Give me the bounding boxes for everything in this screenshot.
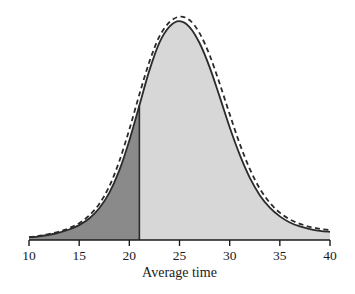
x-axis-tick-label: 10 — [22, 248, 36, 263]
x-axis-title: Average time — [142, 265, 217, 280]
x-axis-tick-label: 30 — [223, 248, 237, 263]
x-axis-tick-label: 35 — [273, 248, 287, 263]
x-axis-tick-label: 25 — [173, 248, 187, 263]
x-axis-tick-label: 20 — [123, 248, 137, 263]
distribution-chart: 10152025303540 Average time — [0, 0, 355, 294]
chart-figure: 10152025303540 Average time — [0, 0, 355, 294]
x-axis-tick-label: 40 — [323, 248, 337, 263]
x-axis-tick-label: 15 — [72, 248, 86, 263]
